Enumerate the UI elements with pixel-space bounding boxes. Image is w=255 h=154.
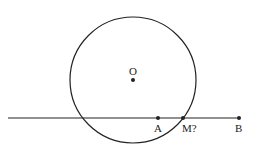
label-m: M? bbox=[182, 122, 197, 134]
label-o: O bbox=[129, 65, 137, 77]
label-a: A bbox=[154, 122, 162, 134]
points-group: OAM?B bbox=[129, 65, 242, 134]
label-b: B bbox=[235, 122, 242, 134]
point-b bbox=[237, 116, 241, 120]
point-a bbox=[156, 116, 160, 120]
geometry-diagram: OAM?B bbox=[0, 0, 255, 154]
point-m bbox=[181, 116, 185, 120]
point-o bbox=[131, 78, 135, 82]
